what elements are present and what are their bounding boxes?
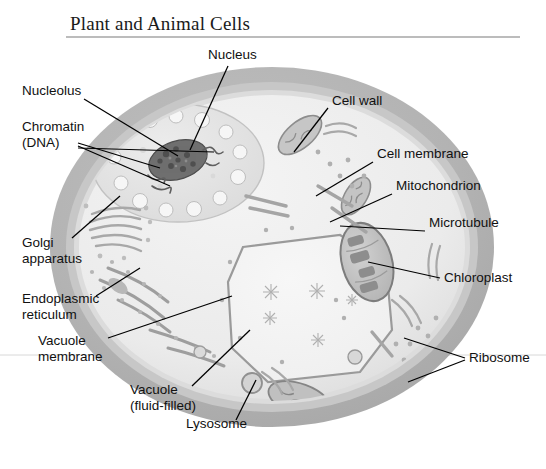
label-lysosome-line-0: Lysosome	[186, 416, 247, 431]
label-ribosome-line-0: Ribosome	[469, 350, 530, 365]
label-vacuole-membrane-line-0: Vacuole	[38, 333, 86, 348]
label-mitochondrion-line-0: Mitochondrion	[396, 178, 481, 193]
label-vacuole-line-1: (fluid-filled)	[130, 398, 196, 413]
label-vacuole-line-0: Vacuole	[130, 382, 178, 397]
label-ribosome: Ribosome	[469, 350, 530, 365]
label-microtubule-line-0: Microtubule	[429, 215, 499, 230]
page-title-group: Plant and Animal Cells	[66, 13, 520, 37]
label-microtubule: Microtubule	[429, 215, 499, 230]
label-golgi-line-1: apparatus	[22, 251, 82, 266]
label-endoplasmic-line-1: reticulum	[22, 307, 77, 322]
page-title: Plant and Animal Cells	[70, 13, 250, 34]
label-chromatin-line-1: (DNA)	[22, 135, 60, 150]
label-chromatin-line-0: Chromatin	[22, 119, 84, 134]
label-lysosome: Lysosome	[186, 416, 247, 431]
label-chloroplast-line-0: Chloroplast	[444, 270, 513, 285]
label-mitochondrion: Mitochondrion	[396, 178, 481, 193]
label-nucleolus: Nucleolus	[22, 83, 82, 98]
label-nucleolus-line-0: Nucleolus	[22, 83, 82, 98]
label-golgi-line-0: Golgi	[22, 235, 54, 250]
label-cell-wall-line-0: Cell wall	[332, 93, 382, 108]
label-cell-wall: Cell wall	[332, 93, 382, 108]
label-cell-membrane: Cell membrane	[377, 146, 469, 161]
label-nucleus: Nucleus	[208, 47, 257, 62]
label-nucleus-line-0: Nucleus	[208, 47, 257, 62]
label-vacuole-membrane-line-1: membrane	[38, 349, 103, 364]
plant-and-animal-cells-diagram: Plant and Animal Cells NucleusNucleolusC…	[0, 0, 546, 469]
label-cell-membrane-line-0: Cell membrane	[377, 146, 469, 161]
label-chromatin: Chromatin(DNA)	[22, 119, 84, 150]
label-endoplasmic-line-0: Endoplasmic	[22, 291, 100, 306]
cell-body	[50, 67, 494, 427]
label-chloroplast: Chloroplast	[444, 270, 513, 285]
cell-diagram-page: Plant and Animal Cells NucleusNucleolusC…	[0, 0, 546, 469]
